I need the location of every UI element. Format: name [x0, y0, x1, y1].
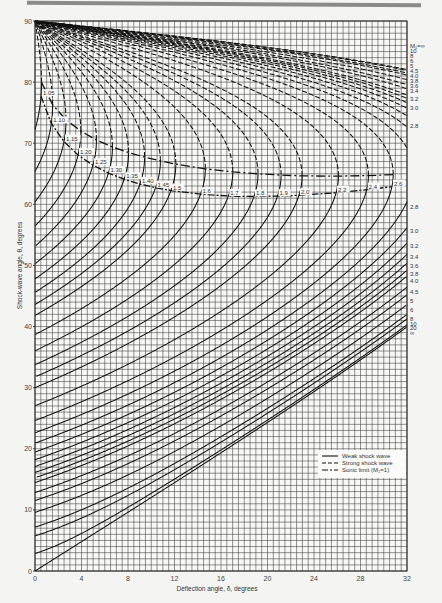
x-tick-label: 28: [357, 575, 365, 582]
mach-label: 1.35: [126, 173, 138, 179]
right-label-strong: 3.2: [410, 96, 419, 102]
right-label-strong: 3.0: [410, 105, 419, 111]
mach-label: 1.5: [173, 185, 182, 191]
right-label-weak: 3.0: [410, 228, 419, 234]
shock-chart: 1.051.101.151.201.251.301.351.401.451.51…: [0, 0, 442, 603]
legend-label: Weak shock wave: [342, 453, 391, 459]
y-tick-label: 90: [24, 18, 32, 25]
right-label-weak: 3.6: [410, 263, 419, 269]
right-label-weak: 6: [410, 307, 414, 313]
y-axis-label: Shock-wave angle, θ, degrees: [16, 221, 24, 309]
mach-label: 1.6: [203, 188, 212, 194]
mach-label: 1.40: [142, 178, 154, 184]
mach-label: 1.10: [53, 117, 65, 123]
y-tick-label: 30: [24, 384, 32, 391]
mach-label: 1.8: [256, 190, 265, 196]
y-tick-label: 20: [24, 445, 32, 452]
mach-label: 1.45: [158, 182, 170, 188]
mach-label: 2.0: [301, 189, 310, 195]
right-label-weak: 2.8: [410, 204, 419, 210]
x-tick-label: 8: [126, 575, 130, 582]
mach-label: 2.4: [369, 184, 378, 190]
y-tick-label: 50: [24, 262, 32, 269]
mach-label: 1.9: [280, 190, 289, 196]
y-tick-label: 70: [24, 140, 32, 147]
x-tick-label: 12: [171, 575, 179, 582]
mach-label: 2.2: [338, 187, 347, 193]
right-label-weak: 4.5: [410, 289, 419, 295]
mach-label: 1.25: [95, 159, 107, 165]
mach-label: 2.6: [394, 181, 403, 187]
chart-legend: Weak shock waveStrong shock waveSonic li…: [318, 450, 406, 478]
mach-label: 1.7: [230, 190, 239, 196]
x-tick-label: 24: [310, 575, 318, 582]
x-tick-label: 16: [217, 575, 225, 582]
legend-label: Strong shock wave: [342, 460, 393, 466]
y-tick-label: 60: [24, 201, 32, 208]
right-label-weak: 3.2: [410, 243, 419, 249]
right-label-strong: 3.4: [410, 88, 419, 94]
mach-label: 1.20: [80, 149, 92, 155]
right-label-weak: 5: [410, 298, 414, 304]
right-label-strong: 2.8: [410, 123, 419, 129]
right-label-weak: 4.0: [410, 278, 419, 284]
x-tick-label: 0: [33, 575, 37, 582]
mach-label: 1.15: [66, 136, 78, 142]
x-axis-label: Deflection angle, δ, degrees: [177, 585, 259, 593]
right-label-weak: 3.8: [410, 271, 419, 277]
right-label-weak: 3.4: [410, 254, 419, 260]
right-label-weak: ∞: [410, 330, 414, 336]
mach-label: 1.30: [110, 167, 122, 173]
mach-label: 1.05: [43, 90, 55, 96]
x-tick-label: 4: [80, 575, 84, 582]
y-tick-label: 0: [28, 568, 32, 575]
x-tick-label: 32: [403, 575, 411, 582]
y-tick-label: 80: [24, 79, 32, 86]
x-tick-label: 20: [264, 575, 272, 582]
y-tick-label: 40: [24, 323, 32, 330]
y-tick-label: 10: [24, 506, 32, 513]
legend-label: Sonic limit (M₂=1): [342, 467, 389, 473]
